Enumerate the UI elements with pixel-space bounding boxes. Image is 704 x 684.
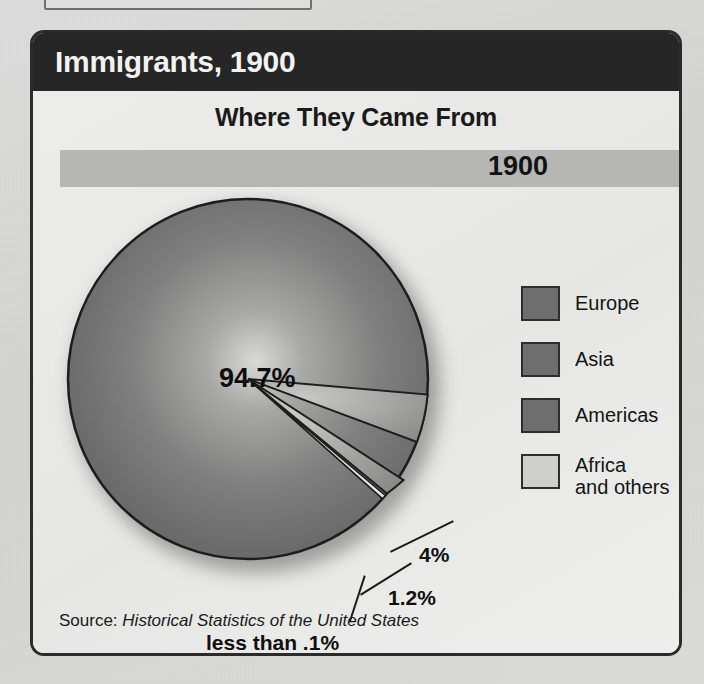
legend-label-americas: Americas (575, 398, 658, 426)
infographic-card: Immigrants, 1900 Where They Came From 19… (30, 30, 682, 656)
legend-swatch-asia (521, 342, 560, 377)
slice-label-americas: 4% (419, 543, 449, 567)
chart-title: Where They Came From (33, 103, 679, 132)
source-citation: Historical Statistics of the United Stat… (122, 611, 419, 630)
legend-label-asia: Asia (575, 342, 614, 370)
legend-label-africa-line1: Africa (575, 454, 670, 476)
card-header: Immigrants, 1900 (33, 33, 679, 91)
legend-swatch-africa (521, 454, 560, 489)
legend-item-europe[interactable]: Europe (521, 286, 682, 321)
slice-label-asia: 1.2% (388, 586, 436, 610)
legend-label-africa-line2: and others (575, 476, 670, 498)
chart-area: Where They Came From 1900 (33, 91, 679, 653)
slice-label-africa: less than .1% (206, 631, 339, 655)
source-note: Source: Historical Statistics of the Uni… (59, 611, 419, 631)
slice-label-europe: 94.7% (219, 363, 296, 394)
source-prefix: Source: (59, 611, 118, 630)
top-cropped-box (44, 0, 312, 10)
legend-item-americas[interactable]: Americas (521, 398, 682, 433)
legend: Europe Asia Americas Africa and others (521, 286, 682, 519)
legend-label-europe: Europe (575, 286, 640, 314)
year-band (60, 150, 679, 187)
legend-swatch-europe (521, 286, 560, 321)
legend-item-asia[interactable]: Asia (521, 342, 682, 377)
legend-item-africa[interactable]: Africa and others (521, 454, 682, 498)
legend-label-africa: Africa and others (575, 454, 670, 498)
page-title: Immigrants, 1900 (55, 45, 295, 79)
legend-swatch-americas (521, 398, 560, 433)
year-label: 1900 (488, 151, 548, 182)
